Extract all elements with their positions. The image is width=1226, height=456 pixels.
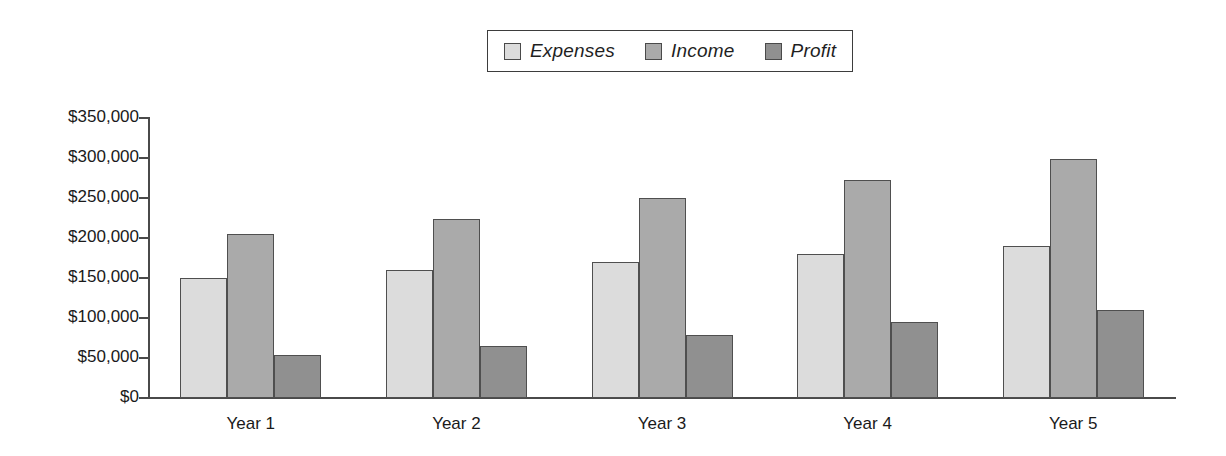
legend-entry-profit: Profit (765, 40, 837, 62)
y-tick-label: $300,000 (55, 147, 139, 167)
y-tick-mark (139, 357, 148, 359)
legend-swatch-profit (765, 43, 782, 60)
y-tick-label: $150,000 (55, 267, 139, 287)
bar-income-year-3 (639, 198, 686, 398)
bar-expenses-year-3 (592, 262, 639, 398)
bar-expenses-year-4 (797, 254, 844, 398)
bar-group (592, 198, 733, 398)
bar-income-year-4 (844, 180, 891, 398)
legend-entry-expenses: Expenses (504, 40, 615, 62)
y-tick-mark (139, 317, 148, 319)
y-tick-mark (139, 397, 148, 399)
y-tick-label: $350,000 (55, 107, 139, 127)
bar-expenses-year-5 (1003, 246, 1050, 398)
plot-area (148, 117, 1176, 398)
legend-swatch-income (645, 43, 662, 60)
bar-group (1003, 159, 1144, 398)
bar-profit-year-2 (480, 346, 527, 398)
legend-swatch-expenses (504, 43, 521, 60)
bar-income-year-5 (1050, 159, 1097, 398)
y-tick-mark (139, 197, 148, 199)
category-label: Year 2 (376, 414, 536, 434)
y-tick-mark (139, 237, 148, 239)
y-tick-label: $0 (55, 387, 139, 407)
category-label: Year 1 (171, 414, 331, 434)
y-tick-label: $200,000 (55, 227, 139, 247)
y-tick-mark (139, 277, 148, 279)
bar-profit-year-3 (686, 335, 733, 398)
legend-label-profit: Profit (791, 40, 837, 62)
bar-expenses-year-1 (180, 278, 227, 398)
bar-profit-year-1 (274, 355, 321, 398)
bar-group (180, 234, 321, 398)
legend-label-income: Income (671, 40, 735, 62)
legend-label-expenses: Expenses (530, 40, 615, 62)
y-tick-label: $100,000 (55, 307, 139, 327)
bar-chart: Expenses Income Profit $0$50,000$100,000… (0, 0, 1226, 456)
y-tick-mark (139, 117, 148, 119)
y-tick-label: $250,000 (55, 187, 139, 207)
bar-profit-year-4 (891, 322, 938, 398)
bar-income-year-1 (227, 234, 274, 398)
y-tick-mark (139, 157, 148, 159)
category-label: Year 5 (993, 414, 1153, 434)
chart-legend: Expenses Income Profit (487, 30, 853, 72)
legend-entry-income: Income (645, 40, 735, 62)
category-label: Year 4 (788, 414, 948, 434)
bar-group (386, 219, 527, 398)
category-label: Year 3 (582, 414, 742, 434)
bar-group (797, 180, 938, 398)
bar-income-year-2 (433, 219, 480, 398)
y-tick-label: $50,000 (55, 347, 139, 367)
bar-expenses-year-2 (386, 270, 433, 398)
bar-profit-year-5 (1097, 310, 1144, 398)
